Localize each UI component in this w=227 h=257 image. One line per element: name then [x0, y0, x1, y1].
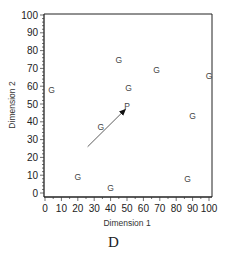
x-tick-label: 70: [154, 203, 166, 214]
y-tick-label: 100: [21, 10, 38, 21]
x-tick-label: 20: [72, 203, 84, 214]
point-g: G: [153, 65, 160, 75]
x-tick-label: 80: [171, 203, 183, 214]
x-tick-label: 10: [56, 203, 68, 214]
y-tick-label: 20: [27, 152, 39, 163]
point-g: G: [48, 85, 55, 95]
x-axis-title: Dimension 1: [103, 218, 151, 228]
figure-caption: D: [0, 234, 227, 251]
point-g: G: [206, 71, 213, 81]
y-axis-title: Dimension 2: [7, 81, 17, 129]
y-tick-label: 40: [27, 116, 39, 127]
y-tick-label: 90: [27, 27, 39, 38]
point-g: G: [115, 55, 122, 65]
y-tick-label: 60: [27, 81, 39, 92]
point-g: G: [184, 174, 191, 184]
x-tick-label: 100: [201, 203, 218, 214]
point-g: G: [97, 122, 104, 132]
x-tick-label: 90: [187, 203, 199, 214]
x-tick-label: 40: [105, 203, 117, 214]
point-p: P: [124, 101, 130, 111]
arrow-annotation: [88, 109, 126, 146]
point-g: G: [74, 172, 81, 182]
x-axis: 0102030405060708090100: [42, 197, 218, 214]
y-tick-label: 50: [27, 99, 39, 110]
y-tick-label: 30: [27, 134, 39, 145]
point-g: G: [189, 111, 196, 121]
y-tick-label: 70: [27, 63, 39, 74]
data-points: GGGGGGGGGGP: [48, 55, 212, 193]
arrow-icon: [88, 109, 126, 146]
point-g: G: [125, 83, 132, 93]
x-tick-label: 50: [121, 203, 133, 214]
y-tick-label: 0: [32, 188, 38, 199]
point-g: G: [107, 183, 114, 193]
y-tick-label: 80: [27, 45, 39, 56]
scatter-plot: 0102030405060708090100 01020304050607080…: [0, 0, 227, 257]
x-tick-label: 60: [138, 203, 150, 214]
x-tick-label: 0: [42, 203, 48, 214]
x-tick-label: 30: [89, 203, 101, 214]
y-axis: 0102030405060708090100: [21, 10, 44, 199]
y-tick-label: 10: [27, 170, 39, 181]
